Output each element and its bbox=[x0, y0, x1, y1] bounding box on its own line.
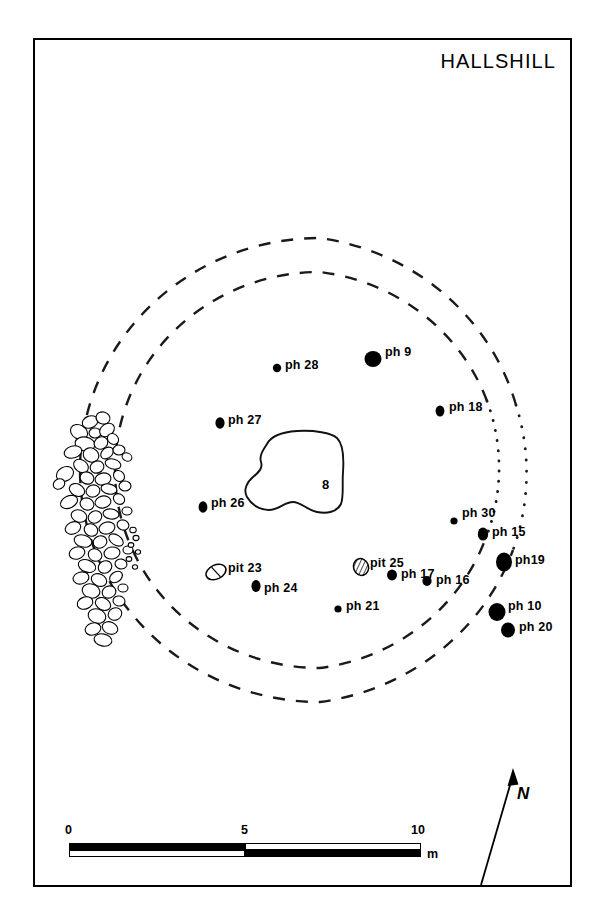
label-pit23: pit 23 bbox=[228, 561, 262, 575]
feature-ph10 bbox=[489, 603, 506, 621]
label-pit25: pit 25 bbox=[370, 556, 404, 570]
label-ph26: ph 26 bbox=[211, 496, 245, 510]
scale-unit-label: m bbox=[427, 847, 438, 861]
label-ph28: ph 28 bbox=[285, 358, 319, 372]
scale-tick-10: 10 bbox=[411, 823, 425, 837]
label-ph30: ph 30 bbox=[462, 506, 496, 520]
scale-cell-bottom-left bbox=[69, 850, 245, 857]
stone-scatter-group bbox=[51, 410, 140, 647]
feature-ph28 bbox=[273, 364, 281, 372]
north-arrow bbox=[481, 768, 519, 885]
feature-ph30 bbox=[450, 517, 457, 524]
scale-cell-top-left bbox=[69, 843, 245, 850]
scale-tick-5: 5 bbox=[241, 823, 248, 837]
feature-ph17 bbox=[387, 570, 397, 581]
feature-ph9 bbox=[365, 351, 382, 367]
label-ph20: ph 20 bbox=[519, 620, 553, 634]
label-ph15: ph 15 bbox=[492, 525, 526, 539]
feature-ph18 bbox=[436, 405, 445, 416]
scale-bar: 0 5 10 bbox=[69, 843, 421, 857]
feature-ph20 bbox=[501, 623, 515, 638]
label-ph16: ph 16 bbox=[436, 573, 470, 587]
label-ph21: ph 21 bbox=[346, 599, 380, 613]
plan-drawing bbox=[35, 40, 570, 885]
scale-tick-0: 0 bbox=[65, 823, 72, 837]
label-ph10: ph 10 bbox=[508, 599, 542, 613]
feature-ph15 bbox=[478, 527, 488, 540]
feature-ph24 bbox=[251, 580, 260, 592]
label-ph9: ph 9 bbox=[385, 345, 412, 359]
feature-pit25 bbox=[351, 556, 371, 577]
label-ph19: ph19 bbox=[515, 553, 545, 567]
plan-frame: HALLSHILL bbox=[33, 38, 572, 887]
label-ph27: ph 27 bbox=[228, 413, 262, 427]
central-feature-8-outline bbox=[245, 431, 343, 513]
central-feature-label: 8 bbox=[322, 477, 329, 492]
feature-ph21 bbox=[334, 605, 341, 612]
site-plan-page: HALLSHILL bbox=[0, 0, 603, 923]
scale-cell-bottom-right bbox=[245, 850, 421, 857]
label-ph24: ph 24 bbox=[264, 581, 298, 595]
label-ph17: ph 17 bbox=[401, 567, 435, 581]
feature-ph27 bbox=[215, 417, 224, 429]
feature-ph19 bbox=[496, 553, 512, 572]
north-label: N bbox=[517, 784, 529, 804]
scale-bar-top-row bbox=[69, 843, 421, 850]
scale-bar-bottom-row bbox=[69, 850, 421, 857]
feature-ph26 bbox=[199, 501, 208, 513]
scale-cell-top-right bbox=[245, 843, 421, 850]
label-ph18: ph 18 bbox=[449, 400, 483, 414]
